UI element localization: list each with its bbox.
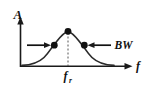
resonance-chart-svg: A f f r BW <box>0 0 148 95</box>
bandwidth-right-pointer <box>88 42 112 48</box>
bandwidth-left-arrowhead-icon <box>44 42 51 48</box>
peak-point-marker <box>65 28 72 35</box>
bandwidth-right-arrowhead-icon <box>88 42 95 48</box>
bandwidth-label: BW <box>114 39 134 51</box>
x-axis <box>21 63 133 69</box>
x-axis-arrowhead-icon <box>125 63 133 69</box>
x-axis-label: f <box>136 59 141 73</box>
resonant-frequency-label: f r <box>64 69 73 85</box>
upper-half-power-point-marker <box>81 42 88 49</box>
resonance-curve-figure: A f f r BW <box>0 0 148 95</box>
y-axis-label: A <box>13 7 23 22</box>
resonant-frequency-label-subscript: r <box>69 76 72 85</box>
y-axis <box>17 17 23 68</box>
resonance-curve-path <box>22 31 114 65</box>
resonant-frequency-label-base: f <box>64 69 69 83</box>
lower-half-power-point-marker <box>51 42 58 49</box>
bandwidth-left-pointer <box>27 42 51 48</box>
